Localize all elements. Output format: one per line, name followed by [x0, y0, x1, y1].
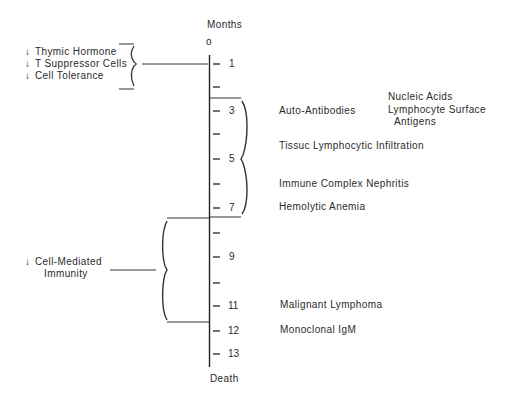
early-item-thymic-hormone: ↓Thymic Hormone: [25, 46, 117, 58]
event-tissue-infiltration: Tissuc Lymphocytic Infiltration: [279, 140, 424, 152]
late-item-line1: ↓Cell-Mediated: [25, 256, 102, 268]
tick-label-3: 3: [229, 105, 235, 117]
event-nephritis: Immune Complex Nephritis: [279, 178, 409, 190]
event-hemolytic-anemia: Hemolytic Anemia: [279, 201, 365, 213]
axis-ticks: [213, 64, 220, 354]
early-item-label: Thymic Hormone: [35, 46, 117, 57]
tick-label-13: 13: [228, 348, 239, 360]
tick-label-7: 7: [229, 202, 235, 214]
tick-label-11: 11: [228, 300, 238, 312]
axis-title: Months: [207, 19, 242, 31]
target-lymphocyte-surface: Lymphocyte Surface: [388, 104, 486, 116]
down-arrow-icon: ↓: [25, 58, 35, 70]
late-item-line2: Immunity: [44, 268, 88, 280]
late-item-label: Cell-Mediated: [35, 256, 102, 267]
tick-label-12: 12: [228, 325, 239, 337]
early-item-label: T Suppressor Cells: [35, 58, 127, 69]
axis-end-label: Death: [210, 373, 239, 385]
early-item-cell-tolerance: ↓Cell Tolerance: [25, 70, 104, 82]
event-auto-antibodies: Auto-Antibodies: [279, 105, 356, 117]
early-item-t-suppressor: ↓T Suppressor Cells: [25, 58, 127, 70]
down-arrow-icon: ↓: [25, 46, 35, 58]
tick-label-1: 1: [229, 58, 235, 70]
down-arrow-icon: ↓: [25, 70, 35, 82]
early-bracket: [119, 44, 208, 89]
down-arrow-icon: ↓: [25, 256, 35, 268]
tick-label-9: 9: [229, 251, 235, 263]
tick-label-5: 5: [229, 153, 235, 165]
early-item-label: Cell Tolerance: [35, 70, 104, 81]
target-nucleic-acids: Nucleic Acids: [388, 91, 453, 103]
target-antigens: Antigens: [394, 116, 436, 128]
axis-origin-label: o: [206, 36, 212, 48]
event-malignant-lymphoma: Malignant Lymphoma: [280, 299, 382, 311]
event-monoclonal-igm: Monoclonal IgM: [280, 324, 356, 336]
late-bracket: [110, 218, 209, 322]
